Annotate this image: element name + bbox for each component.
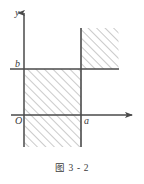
- figure-caption: 图 3 - 2: [0, 160, 144, 174]
- y-value-label-b: b: [15, 59, 20, 69]
- y-axis-label: y: [15, 8, 19, 18]
- origin-label: O: [15, 116, 22, 126]
- upper-right-hatched-region: [82, 28, 119, 69]
- figure-container: y b O a 图 3 - 2: [0, 0, 144, 184]
- x-value-label-a: a: [84, 116, 89, 126]
- figure-graphic: [0, 0, 144, 184]
- lower-left-hatched-region: [25, 69, 82, 147]
